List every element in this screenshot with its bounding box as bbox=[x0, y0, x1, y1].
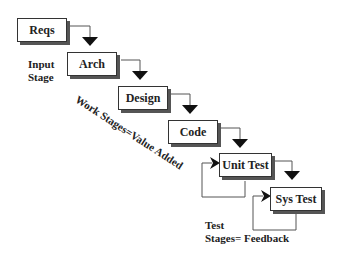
stage-design: Design bbox=[118, 86, 168, 110]
stage-arch: Arch bbox=[67, 52, 117, 76]
stage-reqs: Reqs bbox=[17, 18, 67, 42]
test-label-line1: Test bbox=[205, 219, 289, 232]
input-label-line2: Stage bbox=[28, 71, 54, 84]
input-label-line1: Input bbox=[28, 58, 54, 71]
test-stages-label: Test Stages= Feedback bbox=[205, 219, 289, 245]
test-label-line2: Stages= Feedback bbox=[205, 232, 289, 245]
stage-sys-test: Sys Test bbox=[270, 187, 322, 211]
stage-unit-test: Unit Test bbox=[219, 153, 272, 177]
stage-code: Code bbox=[168, 120, 218, 144]
input-stage-label: Input Stage bbox=[28, 58, 54, 84]
